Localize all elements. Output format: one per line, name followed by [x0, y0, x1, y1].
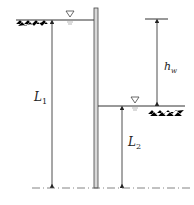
L2-label: L2 [127, 135, 141, 151]
hw-label: hw [164, 60, 177, 75]
left-water-level-icon [66, 11, 74, 24]
sheet-pile-wall [94, 8, 98, 188]
right-soil-hatch [148, 110, 184, 116]
L1-label: L1 [33, 90, 47, 106]
sheet-pile-diagram: L1 hw L2 [0, 0, 194, 205]
right-water-level-icon [131, 97, 139, 110]
left-soil-hatch [16, 20, 48, 26]
